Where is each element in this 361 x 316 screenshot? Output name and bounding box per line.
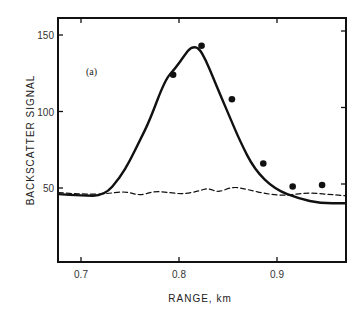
y-tick-label: 100	[37, 107, 54, 118]
data-point-marker	[319, 182, 326, 189]
dashed-curve	[59, 188, 345, 196]
solid-curve	[59, 47, 345, 203]
x-tick-label: 0.8	[172, 269, 186, 280]
data-point-marker	[170, 71, 177, 78]
data-point-marker	[198, 42, 205, 49]
backscatter-chart: 0.70.80.950100150 (a) RANGE, km BACKSCAT…	[0, 0, 361, 316]
y-tick-label: 150	[37, 30, 54, 41]
plot-series	[59, 42, 345, 203]
data-point-marker	[260, 160, 267, 167]
panel-annotation: (a)	[86, 66, 97, 78]
data-point-marker	[289, 183, 296, 190]
x-axis-title: RANGE, km	[168, 293, 231, 304]
x-tick-label: 0.9	[270, 269, 284, 280]
data-point-marker	[229, 96, 236, 103]
y-axis-title: BACKSCATTER SIGNAL	[25, 75, 36, 206]
axis-ticks: 0.70.80.950100150	[37, 18, 346, 280]
x-tick-label: 0.7	[74, 269, 88, 280]
y-tick-label: 50	[43, 183, 55, 194]
